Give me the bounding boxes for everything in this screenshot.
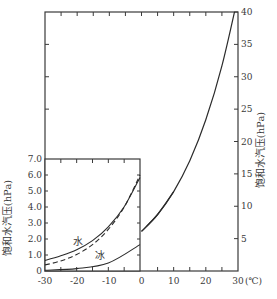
inset-y-tick-label: 0 bbox=[36, 266, 42, 276]
x-tick-label: -20 bbox=[70, 276, 85, 286]
x-unit-label: (℃) bbox=[245, 276, 262, 286]
left-axis-title: 饱和水汽压(hPa) bbox=[1, 180, 13, 257]
main-curve bbox=[142, 0, 239, 231]
main-curve-lower bbox=[142, 192, 174, 232]
inset-y-tick-label: 2.0 bbox=[28, 234, 43, 244]
right-y-tick-label: 15 bbox=[241, 169, 253, 179]
right-y-tick-label: 5 bbox=[241, 234, 247, 244]
inset-y-tick-label: 5.0 bbox=[28, 186, 43, 196]
ice-label: 冰 bbox=[95, 249, 105, 261]
right-y-tick-label: 40 bbox=[241, 7, 253, 17]
main-curve-path bbox=[142, 0, 239, 231]
right-y-tick-label: 20 bbox=[241, 137, 253, 147]
inset-y-tick-label: 4.0 bbox=[28, 202, 43, 212]
right-y-tick-label: 30 bbox=[241, 72, 253, 82]
inset-y-tick-label: 1.0 bbox=[28, 250, 43, 260]
inset-y-tick-label: 3.0 bbox=[28, 218, 43, 228]
inset-y-tick-label: 7.0 bbox=[28, 154, 43, 164]
inset-y-tick-label: 6.0 bbox=[28, 170, 43, 180]
x-tick-label: -10 bbox=[102, 276, 117, 286]
water-label: 水 bbox=[73, 236, 83, 247]
right-axis-title: 饱和水汽压(hPa) bbox=[254, 112, 266, 189]
chart-svg: 510152025303540-30-20-100102030 01.02.03… bbox=[0, 0, 277, 299]
x-tick-label: 10 bbox=[168, 276, 180, 286]
right-y-tick-label: 10 bbox=[241, 201, 253, 211]
right-y-tick-label: 25 bbox=[241, 104, 253, 114]
right-y-tick-label: 35 bbox=[241, 39, 253, 49]
x-tick-label: 30 bbox=[232, 276, 244, 286]
saturation-vapor-pressure-chart: 510152025303540-30-20-100102030 01.02.03… bbox=[0, 0, 277, 299]
x-tick-label: -30 bbox=[38, 276, 53, 286]
x-tick-label: 20 bbox=[200, 276, 212, 286]
x-tick-label: 0 bbox=[139, 276, 145, 286]
